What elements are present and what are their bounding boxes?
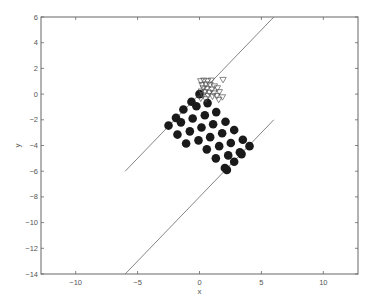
y-tick-label: −6: [29, 167, 38, 176]
filled-circle-point: [237, 150, 246, 159]
y-tick-label: −4: [29, 141, 38, 150]
x-axis-label: x: [198, 287, 202, 296]
y-tick-label: −8: [29, 192, 38, 201]
filled-circle-point: [206, 133, 215, 142]
y-tick-label: −12: [25, 244, 38, 253]
y-tick-label: −2: [29, 115, 38, 124]
y-axis-label: y: [13, 144, 22, 148]
x-tick-label: −5: [133, 278, 142, 287]
data-points: [164, 77, 254, 174]
filled-circle-point: [201, 111, 210, 120]
filled-circle-point: [230, 126, 239, 135]
filled-circle-point: [218, 129, 227, 138]
scatter-plot: −10−505106420−2−4−6−8−10−12−14 x y: [0, 0, 375, 307]
filled-circle-point: [192, 102, 201, 111]
filled-circle-point: [164, 121, 173, 130]
filled-circle-point: [173, 130, 182, 139]
filled-circle-point: [239, 135, 248, 144]
filled-circle-point: [177, 118, 186, 127]
filled-circle-point: [188, 114, 197, 123]
filled-circle-point: [212, 154, 221, 163]
y-tick-label: −14: [25, 270, 38, 279]
filled-circle-point: [245, 142, 254, 151]
filled-circle-point: [194, 136, 203, 145]
x-tick-label: 10: [319, 278, 327, 287]
scatter-figure: −10−505106420−2−4−6−8−10−12−14 x y: [0, 0, 375, 307]
filled-circle-point: [215, 142, 224, 151]
filled-circle-point: [223, 166, 232, 175]
axes-frame: [41, 17, 358, 274]
filled-circle-point: [179, 105, 188, 114]
y-tick-label: −10: [25, 218, 38, 227]
filled-circle-point: [227, 139, 236, 148]
filled-circle-point: [209, 120, 218, 129]
x-tick-label: −10: [69, 278, 82, 287]
filled-circle-point: [221, 117, 230, 126]
y-tick-label: 4: [34, 38, 38, 47]
filled-circle-point: [230, 158, 239, 167]
filled-circle-point: [182, 139, 191, 148]
y-tick-label: 2: [34, 64, 38, 73]
axis-ticks: −10−505106420−2−4−6−8−10−12−14: [25, 13, 358, 288]
filled-circle-point: [186, 127, 195, 136]
open-triangle-point: [220, 77, 226, 82]
y-tick-label: 6: [34, 13, 38, 22]
filled-circle-point: [224, 151, 233, 160]
filled-circle-point: [197, 123, 206, 132]
filled-circle-point: [203, 145, 212, 154]
filled-circle-point: [212, 108, 221, 117]
x-tick-label: 5: [259, 278, 263, 287]
y-tick-label: 0: [34, 90, 38, 99]
x-tick-label: 0: [197, 278, 201, 287]
